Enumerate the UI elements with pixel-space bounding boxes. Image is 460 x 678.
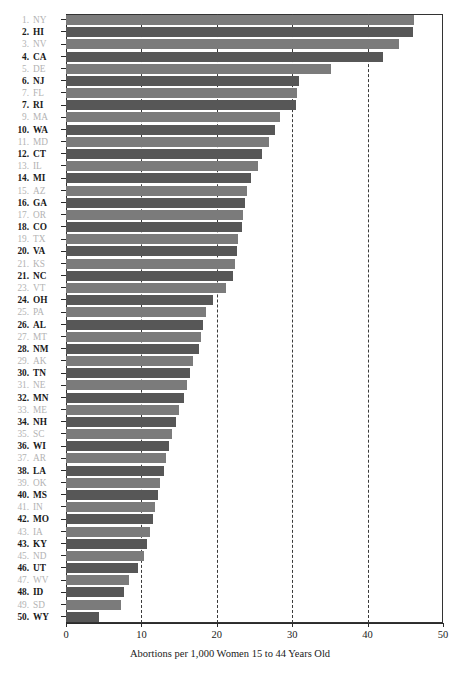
bar[interactable] [66, 368, 190, 378]
bar-row[interactable]: 13.IL [0, 160, 460, 172]
bar-row[interactable]: 50.WY [0, 611, 460, 623]
bar-row[interactable]: 21.NC [0, 270, 460, 282]
bar-row[interactable]: 36.WI [0, 440, 460, 452]
bar[interactable] [66, 356, 193, 366]
bar-row[interactable]: 20.VA [0, 245, 460, 257]
bar[interactable] [66, 100, 296, 110]
bar-row[interactable]: 14.MI [0, 172, 460, 184]
bar[interactable] [66, 259, 235, 269]
bar-row[interactable]: 46.UT [0, 562, 460, 574]
bar[interactable] [66, 76, 299, 86]
bar[interactable] [66, 161, 258, 171]
bar-row[interactable]: 34.NH [0, 416, 460, 428]
bar-row[interactable]: 37.AR [0, 452, 460, 464]
bar-row[interactable]: 47.WV [0, 574, 460, 586]
bar[interactable] [66, 125, 275, 135]
bar[interactable] [66, 64, 331, 74]
bar[interactable] [66, 429, 172, 439]
bar[interactable] [66, 234, 238, 244]
bar[interactable] [66, 283, 226, 293]
bar-row[interactable]: 31.NE [0, 379, 460, 391]
bar[interactable] [66, 320, 203, 330]
bar-row[interactable]: 3.NV [0, 38, 460, 50]
bar-row[interactable]: 48.ID [0, 586, 460, 598]
bar[interactable] [66, 380, 187, 390]
bar-row[interactable]: 17.OR [0, 209, 460, 221]
bar-row[interactable]: 26.AL [0, 319, 460, 331]
bar[interactable] [66, 39, 399, 49]
bar[interactable] [66, 295, 213, 305]
bar[interactable] [66, 15, 414, 25]
bar-row[interactable]: 41.IN [0, 501, 460, 513]
bar[interactable] [66, 551, 144, 561]
bar[interactable] [66, 587, 124, 597]
bar[interactable] [66, 539, 147, 549]
bar-row[interactable]: 45.ND [0, 550, 460, 562]
bar[interactable] [66, 575, 129, 585]
bar[interactable] [66, 502, 155, 512]
bar-row[interactable]: 6.NJ [0, 75, 460, 87]
bar-row[interactable]: 18.CO [0, 221, 460, 233]
bar-row[interactable]: 15.AZ [0, 185, 460, 197]
bar[interactable] [66, 198, 245, 208]
bar[interactable] [66, 246, 237, 256]
bar[interactable] [66, 186, 247, 196]
bar[interactable] [66, 600, 121, 610]
bar-row[interactable]: 9.MA [0, 111, 460, 123]
bar[interactable] [66, 490, 158, 500]
bar-row[interactable]: 24.OH [0, 294, 460, 306]
bar[interactable] [66, 466, 164, 476]
bar-row[interactable]: 39.OK [0, 477, 460, 489]
bar[interactable] [66, 514, 153, 524]
bar[interactable] [66, 137, 269, 147]
bar-row[interactable]: 7.FL [0, 87, 460, 99]
bar[interactable] [66, 612, 99, 622]
bar-row[interactable]: 5.DE [0, 63, 460, 75]
bar[interactable] [66, 332, 201, 342]
bar[interactable] [66, 271, 233, 281]
bar-row[interactable]: 43.IA [0, 526, 460, 538]
bar-row[interactable]: 4.CA [0, 51, 460, 63]
bar[interactable] [66, 393, 184, 403]
bar-row[interactable]: 28.NM [0, 343, 460, 355]
bar-row[interactable]: 21.KS [0, 258, 460, 270]
bar-row[interactable]: 29.AK [0, 355, 460, 367]
bar-row[interactable]: 23.VT [0, 282, 460, 294]
bar-row[interactable]: 12.CT [0, 148, 460, 160]
bar-row[interactable]: 33.ME [0, 404, 460, 416]
bar[interactable] [66, 417, 176, 427]
bar[interactable] [66, 88, 297, 98]
bar[interactable] [66, 173, 251, 183]
bar[interactable] [66, 453, 166, 463]
bar[interactable] [66, 112, 280, 122]
bar-row[interactable]: 38.LA [0, 465, 460, 477]
bar[interactable] [66, 344, 199, 354]
bar[interactable] [66, 405, 179, 415]
bar[interactable] [66, 52, 383, 62]
bar[interactable] [66, 527, 150, 537]
bar-row[interactable]: 11.MD [0, 136, 460, 148]
bar[interactable] [66, 563, 138, 573]
bar[interactable] [66, 441, 169, 451]
bar[interactable] [66, 222, 242, 232]
bar-row[interactable]: 16.GA [0, 197, 460, 209]
bar-row[interactable]: 32.MN [0, 392, 460, 404]
bar[interactable] [66, 210, 243, 220]
bar-row[interactable]: 25.PA [0, 306, 460, 318]
bar-row[interactable]: 35.SC [0, 428, 460, 440]
bar-row[interactable]: 27.MT [0, 331, 460, 343]
bar-row[interactable]: 49.SD [0, 599, 460, 611]
bar-row[interactable]: 43.KY [0, 538, 460, 550]
bar[interactable] [66, 27, 413, 37]
bar-row[interactable]: 2.HI [0, 26, 460, 38]
bar[interactable] [66, 307, 206, 317]
bar-row[interactable]: 7.RI [0, 99, 460, 111]
bar-row[interactable]: 19.TX [0, 233, 460, 245]
bar-row[interactable]: 30.TN [0, 367, 460, 379]
bar-row[interactable]: 42.MO [0, 513, 460, 525]
bar[interactable] [66, 149, 262, 159]
bar-row[interactable]: 10.WA [0, 124, 460, 136]
bar[interactable] [66, 478, 160, 488]
bar-row[interactable]: 40.MS [0, 489, 460, 501]
bar-row[interactable]: 1.NY [0, 14, 460, 26]
